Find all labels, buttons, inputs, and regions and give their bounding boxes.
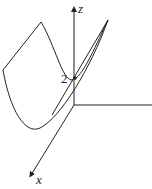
intercept-point: [73, 76, 77, 80]
parabola-front-curve: [3, 20, 108, 129]
surface-left-edge: [3, 22, 41, 70]
plane-line: [52, 20, 108, 115]
surface-diagram: z x 2: [0, 0, 152, 189]
intercept-label: 2: [61, 71, 68, 86]
z-axis-label: z: [77, 1, 83, 16]
x-axis-label: x: [35, 172, 42, 187]
x-axis: [31, 105, 74, 175]
